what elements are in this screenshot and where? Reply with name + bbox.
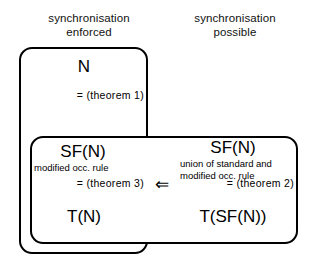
- label-t-sf-n: T(SF(N)): [178, 207, 288, 227]
- implies-left-arrow-icon: ⇐: [148, 176, 176, 193]
- subtitle-sf-n-left: modified occ. rule: [34, 162, 154, 174]
- relation-theorem-2: = (theorem 2): [182, 177, 294, 190]
- relation-theorem-3: = (theorem 3): [40, 177, 144, 190]
- synchronisation-diagram: synchronisation enforced synchronisation…: [0, 0, 315, 271]
- label-sf-n-right: SF(N): [180, 138, 286, 158]
- column-header-synchronisation-enforced: synchronisation enforced: [24, 11, 154, 39]
- label-sf-n-left: SF(N): [34, 142, 132, 162]
- label-n: N: [44, 57, 124, 77]
- label-t-n: T(N): [44, 207, 124, 227]
- relation-theorem-1: = (theorem 1): [40, 89, 144, 102]
- column-header-synchronisation-possible: synchronisation possible: [170, 11, 300, 39]
